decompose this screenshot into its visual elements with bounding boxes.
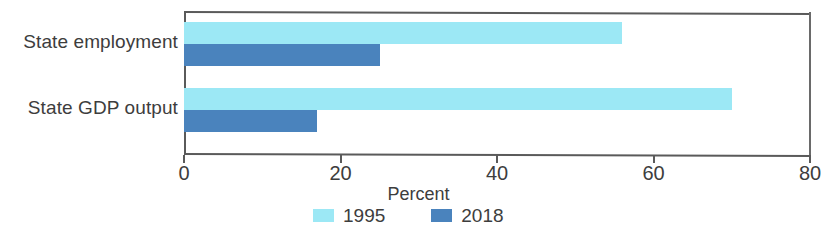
x-axis-title-text: Percent — [387, 184, 449, 204]
plot-area — [184, 11, 811, 155]
legend-swatch-2018-icon — [431, 209, 452, 222]
legend-item-2018: 2018 — [431, 206, 503, 225]
x-axis-tick-label-40: 40 — [486, 162, 508, 185]
x-axis-tick-label-20: 20 — [329, 162, 351, 185]
legend-label-2018: 2018 — [461, 206, 503, 225]
x-axis-title: Percent — [0, 184, 823, 205]
legend-item-1995: 1995 — [313, 206, 385, 225]
category-label-state-gdp-output: State GDP output — [28, 97, 178, 119]
bar-chart: State employment State GDP output 020406… — [0, 0, 823, 229]
plot-frame-top-line — [184, 11, 811, 15]
legend-swatch-1995-icon — [313, 209, 334, 222]
x-axis-tick-label-0: 0 — [178, 162, 189, 185]
plot-frame-right-line — [809, 12, 811, 156]
bar-state-gdp-output-2018 — [184, 110, 317, 132]
legend-label-1995: 1995 — [343, 206, 385, 225]
x-axis-tick-label-80: 80 — [799, 162, 821, 185]
bar-state-employment-1995 — [184, 22, 622, 44]
bar-state-employment-2018 — [184, 44, 380, 66]
bar-state-gdp-output-1995 — [184, 88, 732, 110]
chart-legend: 1995 2018 — [313, 206, 504, 225]
category-label-state-employment: State employment — [23, 31, 178, 53]
x-axis-tick-label-60: 60 — [642, 162, 664, 185]
